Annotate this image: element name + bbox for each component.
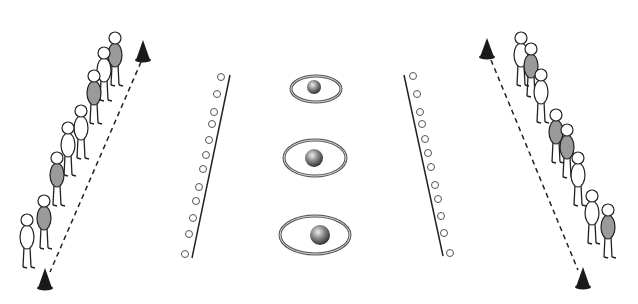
left-team [20,32,123,268]
target-1 [291,76,341,102]
ball-icon [310,225,330,245]
cone-icon [575,267,591,290]
left-boundary-line [192,75,230,258]
right-boundary-line [404,75,443,256]
right-markers [410,73,454,257]
player [87,70,102,124]
player [37,195,52,249]
player [50,152,65,206]
player [585,190,600,244]
player [108,32,123,86]
diagram-canvas [0,0,638,304]
player [74,105,89,159]
ball-icon [307,80,321,94]
player [534,69,549,123]
cone-icon [135,40,151,63]
player [571,152,586,206]
right-team [514,32,616,258]
player [601,204,616,258]
cone-icon [479,38,495,60]
drill-diagram [0,0,638,304]
player [20,214,35,268]
target-3 [280,216,350,254]
left-markers [182,74,225,258]
ball-icon [305,149,323,167]
target-2 [284,140,346,176]
